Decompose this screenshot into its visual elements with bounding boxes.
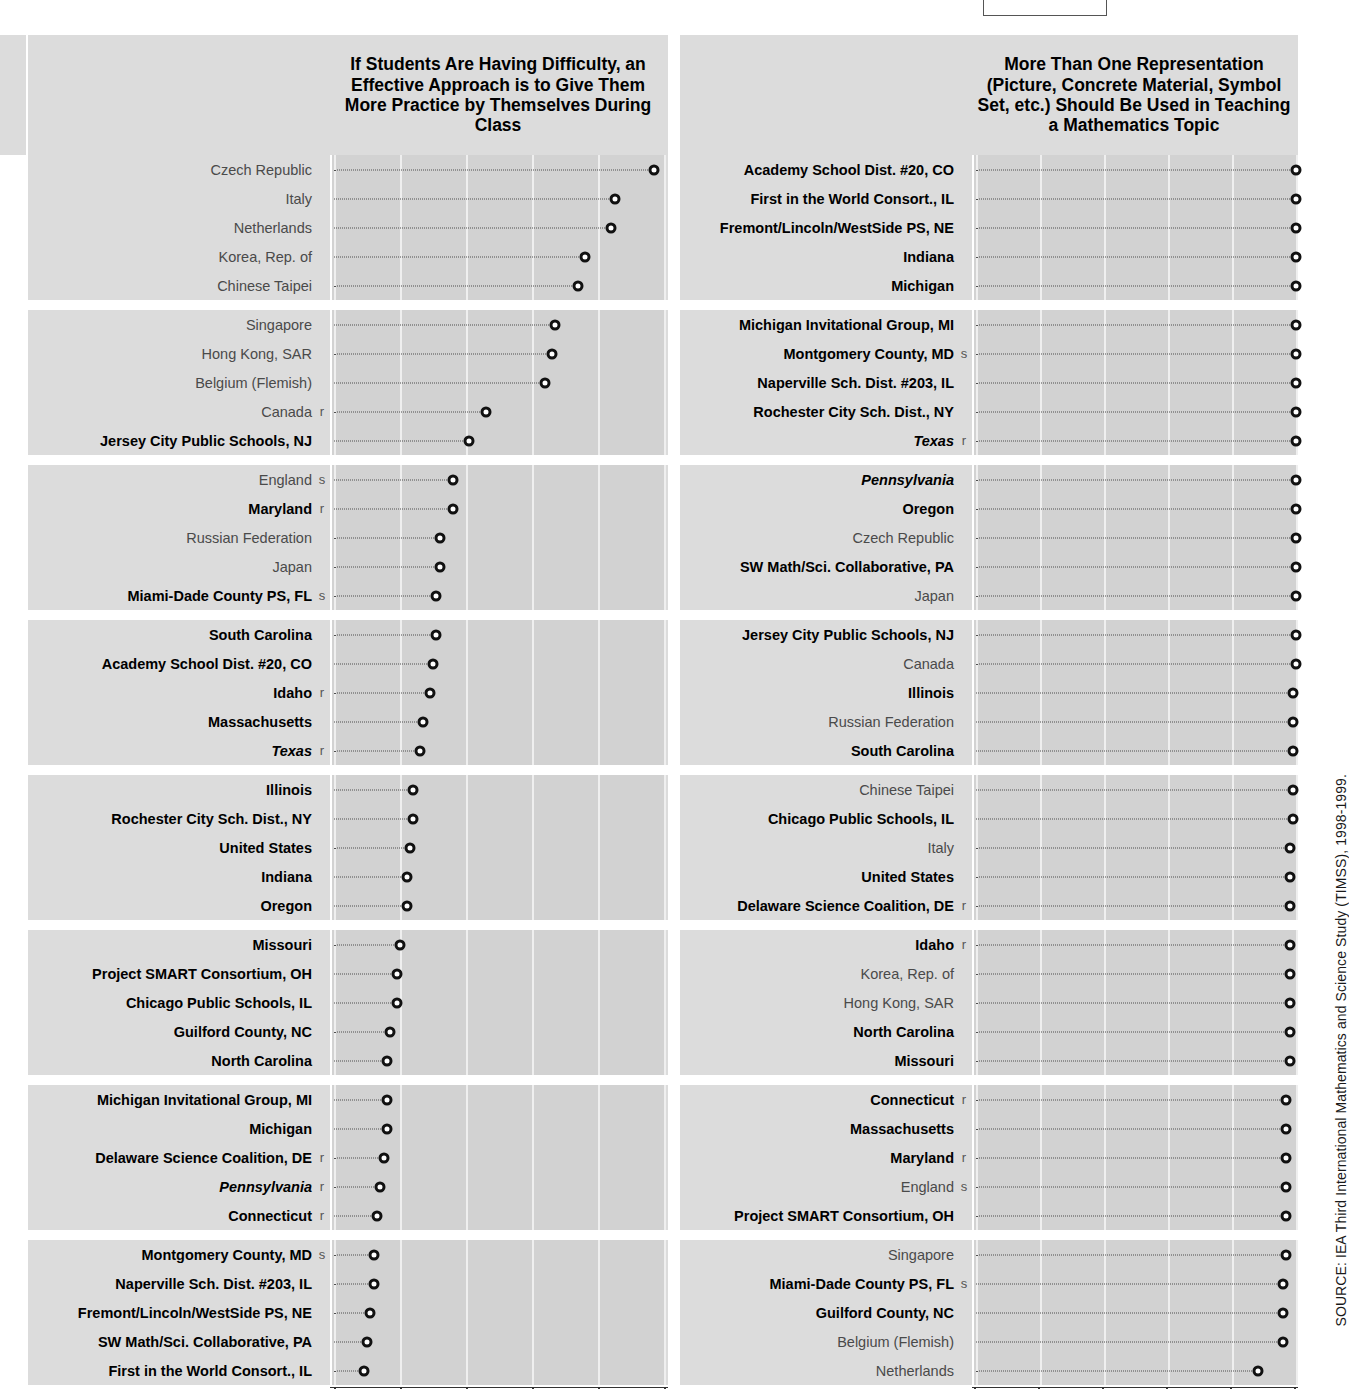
row-plot <box>330 523 666 552</box>
gridline <box>598 930 600 959</box>
row-plot <box>330 339 666 368</box>
data-point-marker <box>408 813 419 824</box>
table-row: Marylandr <box>28 494 668 523</box>
leader-line <box>334 973 395 974</box>
row-label: North Carolina <box>28 1046 314 1075</box>
row-plot <box>972 155 1298 184</box>
data-point-marker <box>408 784 419 795</box>
data-point-marker <box>579 251 590 262</box>
leader-line <box>976 198 1294 199</box>
table-row: Korea, Rep. of <box>680 959 1298 988</box>
row-footnote-flag: r <box>314 736 330 765</box>
row-plot <box>972 1085 1298 1114</box>
gridline <box>466 959 468 988</box>
gridline <box>664 155 666 184</box>
table-row: Idahor <box>28 678 668 707</box>
data-point-marker <box>1284 900 1295 911</box>
gridline <box>532 1172 534 1201</box>
leader-line <box>976 1031 1288 1032</box>
row-plot <box>972 649 1298 678</box>
row-group: IdahorKorea, Rep. ofHong Kong, SARNorth … <box>680 930 1298 1075</box>
gridline <box>664 930 666 959</box>
table-row: Connecticutr <box>28 1201 668 1230</box>
table-row: Rochester City Sch. Dist., NY <box>680 397 1298 426</box>
gridline <box>664 426 666 455</box>
gridline <box>598 523 600 552</box>
row-plot <box>330 552 666 581</box>
gridline <box>1296 1269 1298 1298</box>
row-label: Miami-Dade County PS, FL <box>680 1269 956 1298</box>
table-row: Fremont/Lincoln/WestSide PS, NE <box>680 213 1298 242</box>
gridline <box>1296 1356 1298 1385</box>
row-footnote-flag <box>956 213 972 242</box>
row-label: Belgium (Flemish) <box>28 368 314 397</box>
row-plot <box>330 1327 666 1356</box>
leader-line <box>334 353 550 354</box>
data-point-marker <box>1291 251 1302 262</box>
data-point-marker <box>1291 348 1302 359</box>
top-callout-box <box>983 0 1107 16</box>
data-point-marker <box>1281 1094 1292 1105</box>
leader-line <box>976 944 1288 945</box>
table-row: Marylandr <box>680 1143 1298 1172</box>
data-point-marker <box>1281 1210 1292 1221</box>
row-label: Montgomery County, MD <box>680 339 956 368</box>
gridline <box>664 397 666 426</box>
row-label: Connecticut <box>680 1085 956 1114</box>
gridline <box>466 1240 468 1269</box>
row-label: Pennsylvania <box>28 1172 314 1201</box>
row-plot <box>972 523 1298 552</box>
table-row: Chicago Public Schools, IL <box>680 804 1298 833</box>
gridline <box>400 1269 402 1298</box>
gridline <box>466 523 468 552</box>
row-plot <box>972 1269 1298 1298</box>
gridline <box>532 1085 534 1114</box>
leader-line <box>334 750 418 751</box>
gridline <box>466 736 468 765</box>
row-label: Project SMART Consortium, OH <box>680 1201 956 1230</box>
row-footnote-flag <box>314 707 330 736</box>
leader-line <box>334 1254 372 1255</box>
data-point-marker <box>428 658 439 669</box>
leader-line <box>976 566 1294 567</box>
gridline <box>532 736 534 765</box>
table-row: Delaware Science Coalition, DEr <box>28 1143 668 1172</box>
gridline <box>400 1046 402 1075</box>
gridline <box>400 1298 402 1327</box>
row-plot <box>330 736 666 765</box>
row-label: Singapore <box>680 1240 956 1269</box>
table-row: Missouri <box>28 930 668 959</box>
row-group: Czech RepublicItalyNetherlandsKorea, Rep… <box>28 155 668 300</box>
row-label: Hong Kong, SAR <box>28 339 314 368</box>
gridline <box>598 310 600 339</box>
table-row: Canada <box>680 649 1298 678</box>
data-point-marker <box>1291 590 1302 601</box>
data-point-marker <box>1278 1278 1289 1289</box>
gridline <box>466 1017 468 1046</box>
leader-line <box>976 876 1288 877</box>
row-footnote-flag <box>956 707 972 736</box>
data-point-marker <box>358 1365 369 1376</box>
data-point-marker <box>401 900 412 911</box>
row-label: Korea, Rep. of <box>680 959 956 988</box>
row-plot <box>972 930 1298 959</box>
gridline <box>1296 891 1298 920</box>
table-row: Guilford County, NC <box>680 1298 1298 1327</box>
data-point-marker <box>606 222 617 233</box>
gridline <box>532 1201 534 1230</box>
gridline <box>598 620 600 649</box>
data-point-marker <box>381 1123 392 1134</box>
leader-line <box>334 663 431 664</box>
table-row: Belgium (Flemish) <box>28 368 668 397</box>
row-footnote-flag: r <box>314 1143 330 1172</box>
row-footnote-flag <box>956 1114 972 1143</box>
gridline <box>466 804 468 833</box>
leader-line <box>976 847 1288 848</box>
leader-line <box>976 905 1288 906</box>
leader-line <box>334 1341 365 1342</box>
row-label: Hong Kong, SAR <box>680 988 956 1017</box>
gridline <box>664 1046 666 1075</box>
row-footnote-flag <box>956 1327 972 1356</box>
row-group: MissouriProject SMART Consortium, OHChic… <box>28 930 668 1075</box>
gridline <box>532 930 534 959</box>
